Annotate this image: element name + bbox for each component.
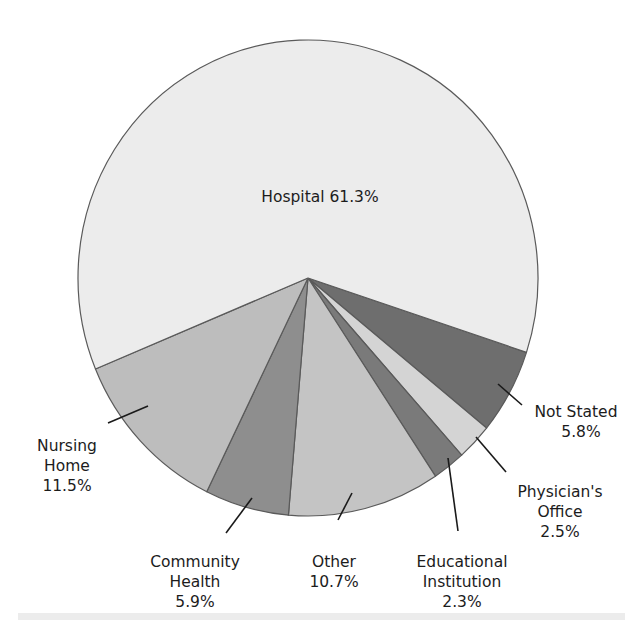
label-community-line2: Health — [150, 572, 240, 592]
label-community-health: Community Health 5.9% — [150, 552, 240, 612]
label-educational-institution: Educational Institution 2.3% — [417, 552, 508, 612]
label-physicians-line1: Physician's — [517, 482, 602, 502]
label-other-name: Other — [309, 552, 358, 572]
label-other: Other 10.7% — [309, 552, 358, 592]
label-physicians-value: 2.5% — [517, 522, 602, 542]
leader-line-physicians — [476, 437, 506, 472]
label-community-value: 5.9% — [150, 592, 240, 612]
label-physicians-office: Physician's Office 2.5% — [517, 482, 602, 542]
label-physicians-line2: Office — [517, 502, 602, 522]
pie-slices — [78, 40, 538, 516]
bottom-divider-bar — [18, 613, 625, 620]
label-nursing-line1: Nursing — [37, 436, 97, 456]
label-not-stated-name: Not Stated — [535, 402, 618, 422]
label-nursing-value: 11.5% — [37, 476, 97, 496]
leader-line-educational — [448, 458, 458, 531]
label-community-line1: Community — [150, 552, 240, 572]
label-educational-value: 2.3% — [417, 592, 508, 612]
label-nursing-home: Nursing Home 11.5% — [37, 436, 97, 496]
label-hospital: Hospital 61.3% — [261, 188, 378, 206]
label-other-value: 10.7% — [309, 572, 358, 592]
label-educational-line1: Educational — [417, 552, 508, 572]
label-educational-line2: Institution — [417, 572, 508, 592]
label-hospital-text: Hospital 61.3% — [261, 188, 378, 206]
label-not-stated-value: 5.8% — [535, 422, 618, 442]
label-nursing-line2: Home — [37, 456, 97, 476]
label-not-stated: Not Stated 5.8% — [535, 402, 618, 442]
